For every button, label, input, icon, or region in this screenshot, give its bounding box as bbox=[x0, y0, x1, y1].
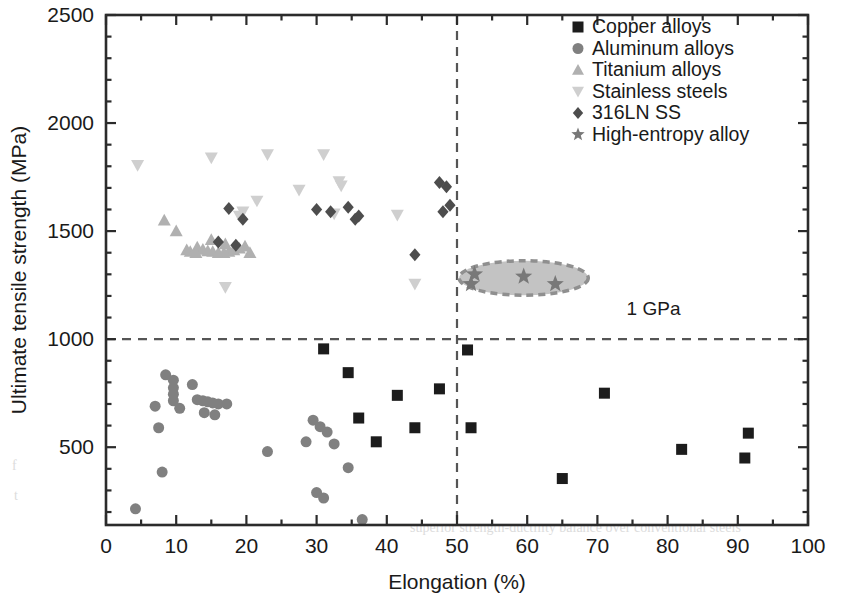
x-tick-label: 90 bbox=[726, 534, 749, 557]
legend-marker-square-icon bbox=[573, 22, 584, 33]
y-tick-label: 2000 bbox=[47, 111, 94, 134]
figure-container: Table 1. Comparison of mechanical proper… bbox=[0, 0, 843, 598]
data-point bbox=[357, 514, 368, 525]
data-point bbox=[318, 492, 329, 503]
legend-label: Stainless steels bbox=[592, 80, 728, 102]
data-point bbox=[187, 379, 198, 390]
x-tick-label: 50 bbox=[445, 534, 468, 557]
legend-label: Titanium alloys bbox=[592, 58, 722, 80]
scatter-chart: Table 1. Comparison of mechanical proper… bbox=[0, 0, 843, 598]
data-point bbox=[301, 436, 312, 447]
x-tick-label: 20 bbox=[235, 534, 258, 557]
data-point bbox=[322, 427, 333, 438]
data-point bbox=[209, 409, 220, 420]
data-point bbox=[371, 436, 382, 447]
data-point bbox=[262, 446, 273, 457]
data-point bbox=[318, 343, 329, 354]
legend-label: High-entropy alloy bbox=[592, 123, 749, 145]
data-point bbox=[466, 422, 477, 433]
annotation-1-gpa: 1 GPa bbox=[627, 298, 681, 319]
x-tick-label: 0 bbox=[100, 534, 112, 557]
ghost-text: t bbox=[14, 488, 18, 503]
annotations: 1 GPa bbox=[627, 298, 681, 319]
x-tick-label: 10 bbox=[165, 534, 188, 557]
y-tick-label: 500 bbox=[59, 435, 94, 458]
x-tick-label: 80 bbox=[656, 534, 679, 557]
y-axis-label: Ultimate tensile strength (MPa) bbox=[7, 126, 30, 414]
legend-marker-circle-icon bbox=[573, 43, 584, 54]
x-axis-label: Elongation (%) bbox=[388, 570, 526, 593]
data-point bbox=[599, 388, 610, 399]
data-point bbox=[676, 444, 687, 455]
data-point bbox=[157, 467, 168, 478]
data-point bbox=[409, 422, 420, 433]
x-tick-label: 40 bbox=[375, 534, 398, 557]
data-point bbox=[462, 344, 473, 355]
x-tick-label: 60 bbox=[516, 534, 539, 557]
legend-label: 316LN SS bbox=[592, 101, 681, 123]
data-point bbox=[392, 390, 403, 401]
data-point bbox=[743, 428, 754, 439]
ghost-text: f bbox=[12, 458, 17, 473]
data-point bbox=[343, 462, 354, 473]
data-point bbox=[434, 383, 445, 394]
data-point bbox=[739, 453, 750, 464]
data-point bbox=[557, 473, 568, 484]
data-point bbox=[150, 401, 161, 412]
legend-label: Copper alloys bbox=[592, 15, 711, 37]
data-point bbox=[199, 407, 210, 418]
y-tick-label: 2500 bbox=[47, 3, 94, 26]
x-tick-label: 30 bbox=[305, 534, 328, 557]
data-point bbox=[353, 413, 364, 424]
legend-label: Aluminum alloys bbox=[592, 37, 734, 59]
x-tick-label: 100 bbox=[790, 534, 825, 557]
data-point bbox=[221, 398, 232, 409]
x-tick-label: 70 bbox=[586, 534, 609, 557]
data-point bbox=[130, 503, 141, 514]
data-point bbox=[343, 367, 354, 378]
data-point bbox=[153, 422, 164, 433]
data-point bbox=[174, 403, 185, 414]
y-tick-label: 1000 bbox=[47, 327, 94, 350]
y-tick-label: 1500 bbox=[47, 219, 94, 242]
data-point bbox=[329, 438, 340, 449]
